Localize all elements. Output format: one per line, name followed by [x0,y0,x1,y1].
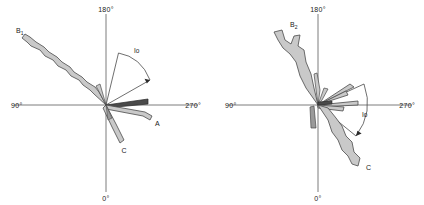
petal-label-c-right: C [366,164,371,171]
figure-rose-diagrams: 180° 90° 270° 0° B1 A C Io [0,0,424,205]
axis-label-180-right: 180° [310,6,326,13]
petal-c-right [318,105,360,166]
annotation-label-io-left: Io [134,47,140,54]
rose-diagram-right: 180° 90° 270° 0° B2 C Io [212,0,424,205]
petal-label-c-left: C [121,147,126,154]
petal-minor-right-7 [318,101,332,105]
annotation-label-io-right: Io [362,111,368,118]
axis-label-90-right: 90° [225,102,237,109]
petal-label-b2: B2 [290,21,298,30]
axis-label-0-left: 0° [102,195,109,202]
axis-label-270-left: 270° [185,102,201,109]
petal-b2-right [274,30,318,105]
petal-label-b1: B1 [16,27,24,36]
axis-label-90-left: 90° [11,102,23,109]
petal-label-a: A [155,120,160,127]
panel-left: 180° 90° 270° 0° B1 A C Io [0,0,212,205]
axis-label-0-right: 0° [314,195,321,202]
axis-label-180-left: 180° [98,6,114,13]
axis-label-270-right: 270° [399,102,415,109]
petal-minor-right-8 [310,106,316,128]
petal-b1-left [22,34,106,105]
rose-diagram-left: 180° 90° 270° 0° B1 A C Io [0,0,212,205]
io-sector-left [106,53,150,105]
panel-right: 180° 90° 270° 0° B2 C Io [212,0,424,205]
